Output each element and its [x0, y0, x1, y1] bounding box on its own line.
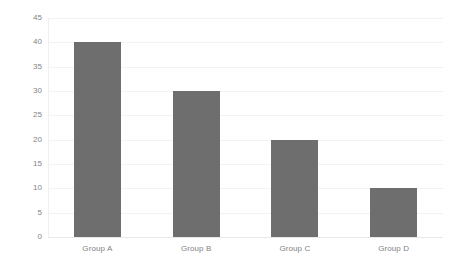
x-tick-label-group-a: Group A	[48, 244, 147, 253]
x-tick-label-group-d: Group D	[344, 244, 443, 253]
gridline-45	[48, 18, 443, 19]
x-tick-label-group-c: Group C	[246, 244, 345, 253]
y-tick-label-25: 25	[2, 111, 42, 119]
x-tick-label-group-b: Group B	[147, 244, 246, 253]
y-tick-label-40: 40	[2, 38, 42, 46]
y-tick-label-45: 45	[2, 14, 42, 22]
y-tick-label-35: 35	[2, 63, 42, 71]
bar-group-b[interactable]	[173, 91, 220, 237]
y-tick-label-30: 30	[2, 87, 42, 95]
y-tick-label-5: 5	[2, 209, 42, 217]
bar-group-c[interactable]	[271, 140, 318, 237]
bar-chart: 051015202530354045 Group AGroup BGroup C…	[0, 0, 451, 271]
y-tick-label-20: 20	[2, 136, 42, 144]
bar-group-a[interactable]	[74, 42, 121, 237]
x-axis-tick-labels: Group AGroup BGroup CGroup D	[48, 244, 443, 258]
y-tick-label-15: 15	[2, 160, 42, 168]
y-tick-label-0: 0	[2, 233, 42, 241]
gridline-0	[48, 237, 443, 238]
bar-group-d[interactable]	[370, 188, 417, 237]
y-axis-tick-labels: 051015202530354045	[0, 0, 42, 271]
plot-area	[48, 18, 443, 237]
y-tick-label-10: 10	[2, 184, 42, 192]
